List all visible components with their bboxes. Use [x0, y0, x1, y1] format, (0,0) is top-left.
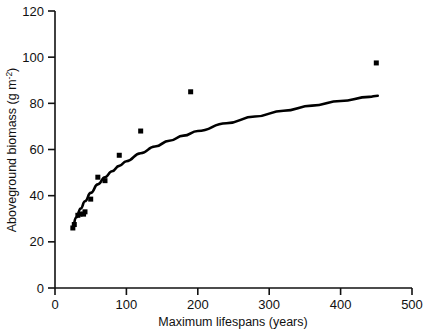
y-axis-title-tail: ) [5, 68, 19, 72]
y-axis-group: 020406080100120 [22, 4, 55, 296]
data-point [88, 197, 93, 202]
x-tick-label: 100 [116, 297, 138, 312]
y-tick-label: 20 [30, 234, 44, 249]
y-tick-label: 40 [30, 188, 44, 203]
scatter-plot: 020406080100120 0100200300400500 Maximum… [0, 0, 427, 335]
data-point [188, 89, 193, 94]
x-tick-label: 0 [51, 297, 58, 312]
data-point [82, 209, 87, 214]
y-axis-title: Aboveground biomass (g m-2) [4, 68, 19, 233]
y-tick-label: 60 [30, 142, 44, 157]
x-tick-label: 300 [258, 297, 280, 312]
data-point [95, 175, 100, 180]
x-axis-ticks [55, 288, 412, 295]
y-axis-tick-labels: 020406080100120 [22, 4, 44, 296]
x-tick-label: 400 [330, 297, 352, 312]
x-axis-title: Maximum lifespans (years) [158, 315, 307, 329]
y-axis-ticks [48, 11, 55, 288]
data-point [102, 178, 107, 183]
x-tick-label: 200 [187, 297, 209, 312]
y-tick-label: 120 [22, 4, 44, 19]
x-axis-group: 0100200300400500 [51, 288, 422, 312]
data-point [72, 222, 77, 227]
y-tick-label: 80 [30, 96, 44, 111]
y-tick-label: 0 [37, 281, 44, 296]
figure-container: 020406080100120 0100200300400500 Maximum… [0, 0, 427, 335]
data-point [117, 153, 122, 158]
y-axis-title-main: Aboveground biomass (g m [5, 79, 19, 232]
y-tick-label: 100 [22, 50, 44, 65]
data-point-markers [70, 60, 378, 230]
fit-curve-line [72, 96, 378, 228]
data-point [138, 129, 143, 134]
data-point [374, 60, 379, 65]
x-axis-tick-labels: 0100200300400500 [51, 297, 422, 312]
x-tick-label: 500 [401, 297, 423, 312]
